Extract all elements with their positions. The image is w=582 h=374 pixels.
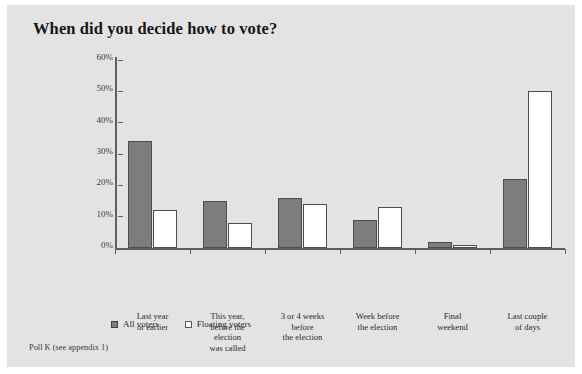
plot-area: 0%10%20%30%40%50%60% Last year or earlie… bbox=[115, 60, 565, 248]
x-axis-tick-mark bbox=[415, 249, 416, 254]
category-label: This year, before the election was calle… bbox=[190, 311, 265, 353]
category-label: 3 or 4 weeks before the election bbox=[265, 311, 340, 343]
x-axis-tick-mark bbox=[490, 249, 491, 254]
bar-group bbox=[503, 60, 552, 248]
bar-floating-voters bbox=[303, 204, 327, 248]
x-axis-tick-mark bbox=[190, 249, 191, 254]
legend-item-floating-voters: Floating voters bbox=[185, 319, 251, 329]
chart-panel: When did you decide how to vote? 0%10%20… bbox=[7, 5, 575, 367]
bar-floating-voters bbox=[378, 207, 402, 248]
source-note: Poll K (see appendix 1) bbox=[29, 343, 108, 352]
chart-legend: All voters Floating voters bbox=[111, 319, 251, 329]
bar-all-voters bbox=[428, 242, 452, 248]
category-label: Last couple of days bbox=[490, 311, 565, 332]
bar-group bbox=[203, 60, 252, 248]
y-axis-tick-label: 50% bbox=[97, 83, 114, 93]
x-axis-tick-mark bbox=[265, 249, 266, 254]
x-axis-tick-mark bbox=[340, 249, 341, 254]
bar-floating-voters bbox=[228, 223, 252, 248]
bar-all-voters bbox=[128, 141, 152, 248]
bar-floating-voters bbox=[453, 245, 477, 248]
y-axis-tick-label: 10% bbox=[97, 209, 114, 219]
bar-group bbox=[353, 60, 402, 248]
y-axis-tick-mark bbox=[118, 60, 123, 61]
y-axis-tick-label: 0% bbox=[101, 240, 113, 250]
bar-all-voters bbox=[203, 201, 227, 248]
figure: When did you decide how to vote? 0%10%20… bbox=[0, 0, 582, 374]
legend-label-floating-voters: Floating voters bbox=[197, 319, 251, 329]
bar-all-voters bbox=[278, 198, 302, 248]
legend-item-all-voters: All voters bbox=[111, 319, 159, 329]
x-axis-tick-mark bbox=[565, 249, 566, 254]
y-axis-tick-label: 40% bbox=[97, 115, 114, 125]
y-axis-tick-label: 60% bbox=[97, 52, 114, 62]
y-axis-tick-label: 20% bbox=[97, 177, 114, 187]
y-axis-tick-mark bbox=[118, 185, 123, 186]
bar-group bbox=[128, 60, 177, 248]
y-axis-tick-mark bbox=[118, 91, 123, 92]
y-axis-tick-mark bbox=[118, 248, 123, 249]
category-label: Week before the election bbox=[340, 311, 415, 332]
y-axis-tick-mark bbox=[118, 122, 123, 123]
bar-group bbox=[428, 60, 477, 248]
x-axis-tick-mark bbox=[115, 249, 116, 254]
bar-all-voters bbox=[503, 179, 527, 248]
y-axis-tick-mark bbox=[118, 216, 123, 217]
category-label: Final weekend bbox=[415, 311, 490, 332]
bar-floating-voters bbox=[153, 210, 177, 248]
bar-floating-voters bbox=[528, 91, 552, 248]
y-axis-tick-mark bbox=[118, 154, 123, 155]
y-axis-line bbox=[115, 57, 117, 248]
bar-all-voters bbox=[353, 220, 377, 248]
legend-swatch-icon-all-voters bbox=[111, 321, 118, 328]
bar-group bbox=[278, 60, 327, 248]
legend-swatch-icon-floating-voters bbox=[185, 321, 192, 328]
y-axis-tick-label: 30% bbox=[97, 146, 114, 156]
legend-label-all-voters: All voters bbox=[123, 319, 159, 329]
chart-title: When did you decide how to vote? bbox=[33, 19, 277, 39]
